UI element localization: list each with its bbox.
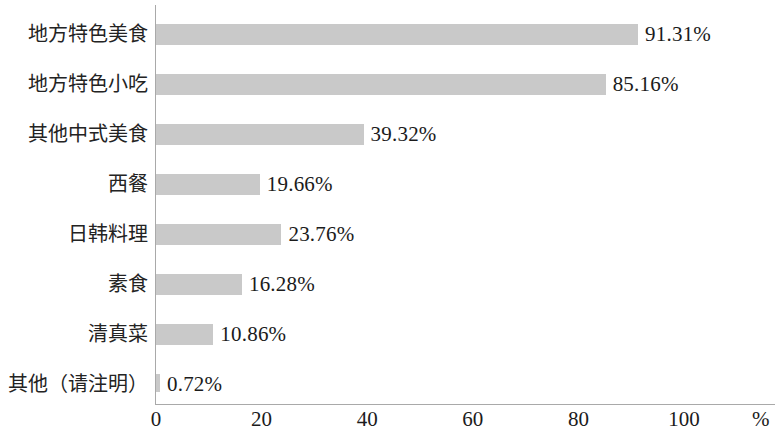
bar-value-label: 91.31% [645,24,711,45]
x-tick-label: 100 [654,409,714,430]
bar [156,324,213,345]
bar [156,124,364,145]
bar [156,224,281,245]
category-label: 其他（请注明） [0,374,148,394]
x-axis-unit-label: % [752,409,770,430]
bar-value-label: 23.76% [288,224,354,245]
x-tick-label: 80 [548,409,608,430]
bar [156,24,638,45]
category-label: 日韩料理 [0,224,148,244]
bar [156,374,160,392]
bar-value-label: 10.86% [220,324,286,345]
bar-value-label: 39.32% [371,124,437,145]
bar [156,274,242,295]
bar-value-label: 85.16% [613,74,679,95]
x-tick-label: 60 [443,409,503,430]
category-label: 西餐 [0,174,148,194]
category-label: 地方特色小吃 [0,74,148,94]
bar [156,74,606,95]
bar-value-label: 0.72% [167,374,222,395]
category-label: 清真菜 [0,324,148,344]
category-label: 素食 [0,274,148,294]
bar-value-label: 16.28% [249,274,315,295]
x-tick-label: 0 [126,409,186,430]
x-axis-line [155,404,775,405]
bar-chart: 地方特色美食 地方特色小吃 其他中式美食 西餐 日韩料理 素食 清真菜 其他（请… [0,0,779,433]
bar-value-label: 19.66% [267,174,333,195]
category-label: 其他中式美食 [0,124,148,144]
x-tick-label: 20 [232,409,292,430]
category-label: 地方特色美食 [0,24,148,44]
bar [156,174,260,195]
x-tick-label: 40 [337,409,397,430]
